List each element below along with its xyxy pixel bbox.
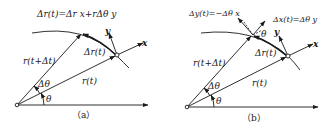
label-r-t-dt-b: r(t+Δt): [193, 58, 226, 68]
local-x-axis-a: [117, 43, 143, 55]
label-theta-small-b: θ: [261, 29, 267, 39]
label-delta-theta-a: Δθ: [37, 79, 50, 89]
label-delta-r-a: Δr(t): [83, 47, 106, 57]
origin-point-b: [185, 105, 189, 109]
label-r-t-b: r(t): [252, 78, 267, 88]
caption-a: （a）: [72, 110, 95, 120]
local-x-axis-b: [288, 44, 313, 56]
equation-a: Δr(t)=Δr x+rΔθ y: [36, 9, 117, 19]
particle-point-a: [115, 53, 119, 57]
label-delta-theta-b: Δθ: [207, 81, 220, 91]
panel-a: Δr(t)=Δr x+rΔθ y r(t+Δt) r(t) Δr(t) Δθ θ…: [15, 9, 148, 120]
label-theta-a: θ: [46, 94, 52, 104]
origin-point-a: [15, 103, 19, 107]
caption-b: （b）: [242, 113, 266, 123]
equation-left-b: Δy(t)=−Δθ x: [188, 9, 240, 18]
panel-b: Δy(t)=−Δθ x Δx(t)=Δθ y r(t+Δt) r(t) Δr(t…: [185, 9, 319, 123]
label-r-t-dt-a: r(t+Δt): [23, 56, 56, 66]
delta-y-vector-b: [238, 18, 253, 35]
label-x-a: x: [141, 38, 148, 48]
label-theta-b: θ: [216, 96, 222, 106]
theta-arc-b: [211, 95, 214, 107]
polar-kinematics-diagram: Δr(t)=Δr x+rΔθ y r(t+Δt) r(t) Δr(t) Δθ θ…: [0, 0, 328, 129]
label-y-b: y: [273, 27, 280, 37]
equation-right-b: Δx(t)=Δθ y: [272, 15, 318, 24]
label-r-t-a: r(t): [82, 76, 97, 86]
label-x-b: x: [312, 39, 319, 49]
particle-point-b: [286, 54, 290, 58]
theta-arc-a: [41, 93, 44, 105]
label-delta-r-b: Δr(t): [254, 48, 277, 58]
label-y-a: y: [104, 26, 111, 36]
